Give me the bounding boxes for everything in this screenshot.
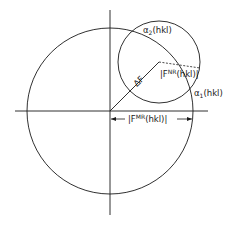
delta-f-vector xyxy=(110,62,159,111)
fmr-label: |FMR(hkl)| xyxy=(128,113,167,124)
phase-diagram: α2(hkl) α1(hkl) |FNR(hkl)| |FMR(hkl)| ΔF xyxy=(0,0,238,226)
alpha2-label: α2(hkl) xyxy=(143,25,172,36)
alpha1-label: α1(hkl) xyxy=(194,88,223,99)
fnr-label: |FNR(hkl)| xyxy=(160,68,199,79)
delta-f-label: ΔF xyxy=(131,74,146,89)
